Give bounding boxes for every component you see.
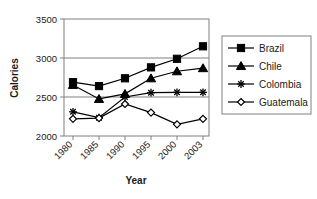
data-point bbox=[199, 43, 206, 50]
data-point bbox=[95, 82, 102, 89]
legend-label: Brazil bbox=[259, 43, 284, 54]
y-tick-label-3000: 3000 bbox=[36, 53, 57, 64]
x-tick-label-1990: 1990 bbox=[104, 139, 127, 162]
y-axis-title: Calories bbox=[9, 58, 20, 98]
x-tick-labels: 1980 1985 1990 1995 2000 2003 bbox=[52, 139, 205, 162]
legend-marker-asterisk bbox=[237, 80, 245, 88]
y-tick-labels: 3500 3000 2500 2000 bbox=[36, 14, 57, 142]
data-point bbox=[173, 88, 181, 96]
x-tick-label-1985: 1985 bbox=[78, 139, 101, 162]
data-point bbox=[147, 89, 155, 97]
legend-marker-filled-square bbox=[237, 44, 244, 51]
x-tick-label-2003: 2003 bbox=[182, 139, 205, 162]
x-tick-label-1980: 1980 bbox=[52, 139, 75, 162]
y-axis-ticks bbox=[60, 19, 64, 136]
legend-label: Colombia bbox=[259, 79, 302, 90]
x-axis-title: Year bbox=[125, 175, 146, 186]
x-tick-label-1995: 1995 bbox=[130, 139, 153, 162]
legend-label: Guatemala bbox=[259, 97, 308, 108]
data-point bbox=[199, 88, 207, 96]
y-tick-label-2000: 2000 bbox=[36, 131, 57, 142]
chart-figure: 3500 3000 2500 2000 1980 1985 1990 1995 … bbox=[0, 0, 317, 199]
legend-label: Chile bbox=[259, 61, 282, 72]
data-point bbox=[121, 75, 128, 82]
data-point bbox=[147, 64, 154, 71]
x-tick-label-2000: 2000 bbox=[156, 139, 179, 162]
y-tick-label-2500: 2500 bbox=[36, 92, 57, 103]
y-tick-label-3500: 3500 bbox=[36, 14, 57, 25]
data-point bbox=[173, 55, 180, 62]
legend: BrazilChileColombiaGuatemala bbox=[222, 36, 311, 114]
